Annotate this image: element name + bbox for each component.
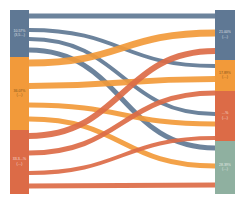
flow-links xyxy=(29,16,215,186)
left-node-label: 10.57%(3,5…) xyxy=(10,29,29,38)
right-node-label: 28.39%(…) xyxy=(215,163,235,172)
flow-link xyxy=(29,185,215,186)
left-node-label: 33.3…%(…) xyxy=(10,157,29,166)
flow-link xyxy=(29,33,215,63)
right-node-label: 21.00%(…) xyxy=(215,30,235,39)
flow-link xyxy=(29,79,215,86)
left-node-label: 36.07%(…) xyxy=(10,89,29,98)
right-node-label: …%(…) xyxy=(215,111,235,120)
sankey-diagram xyxy=(0,0,244,209)
right-node-label: 17.89%(…) xyxy=(215,71,235,80)
